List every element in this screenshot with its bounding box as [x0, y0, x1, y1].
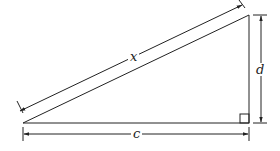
triangle — [23, 15, 249, 123]
hypotenuse-label: x — [128, 50, 139, 63]
height-label: d — [254, 63, 266, 76]
right-angle-marker — [240, 114, 249, 123]
base-label: c — [131, 127, 142, 140]
